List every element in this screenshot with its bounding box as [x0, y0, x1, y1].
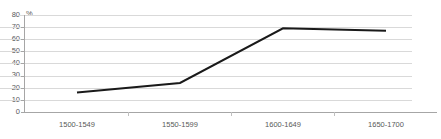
x-axis-category-label: 1500-1549: [59, 120, 95, 129]
gridline-30: [0, 76, 412, 77]
gridline-20: [0, 88, 412, 89]
y-axis-tick-label: 80: [0, 11, 20, 19]
gridline-40: [0, 63, 412, 64]
y-axis-tick: [21, 100, 25, 101]
gridline-50: [0, 51, 412, 52]
x-axis-category-label: 1550-1599: [162, 120, 198, 129]
y-axis-unit-label: %: [26, 10, 33, 18]
y-axis-tick-label: 30: [0, 71, 20, 79]
line-chart: 80 70 60 50 40 30 20 10 0 % 1500-1549 15…: [0, 0, 441, 139]
y-axis-tick-label: 0: [0, 108, 20, 116]
y-axis-tick: [21, 27, 25, 28]
y-axis-tick: [21, 39, 25, 40]
y-axis-line: [24, 15, 25, 113]
x-axis-tick: [231, 112, 232, 116]
y-axis-labels: 80 70 60 50 40 30 20 10 0: [0, 0, 20, 139]
gridline-10: [0, 100, 412, 101]
y-axis-tick: [21, 76, 25, 77]
y-axis-tick: [21, 63, 25, 64]
x-axis-tick: [334, 112, 335, 116]
y-axis-tick: [21, 51, 25, 52]
gridline-70: [0, 27, 412, 28]
y-axis-tick: [21, 88, 25, 89]
x-axis-tick: [128, 112, 129, 116]
x-axis-category-label: 1600-1649: [265, 120, 301, 129]
gridline-80: [18, 15, 412, 16]
x-axis-category-label: 1650-1700: [368, 120, 404, 129]
gridline-60: [0, 39, 412, 40]
series-line: [0, 0, 441, 139]
